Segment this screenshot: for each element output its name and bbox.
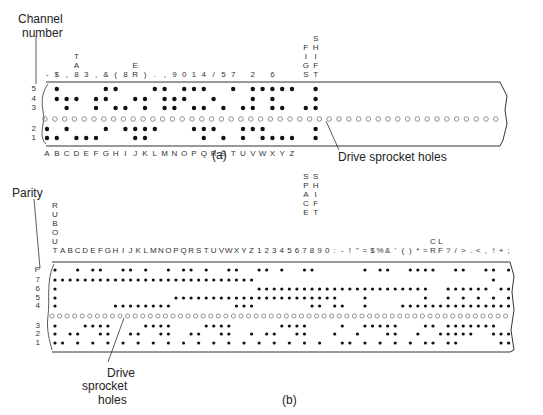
tape-drawings	[0, 0, 543, 415]
